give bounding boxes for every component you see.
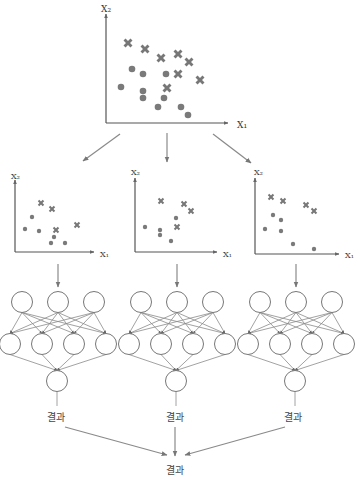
branch-result-left: 결과 [47, 409, 65, 424]
arrow-left-to-final [65, 427, 167, 455]
cross-marker [280, 198, 286, 204]
neural-network-0 [0, 292, 117, 407]
dot-marker [312, 247, 316, 251]
neuron-node [0, 334, 21, 355]
dot-marker [161, 95, 168, 102]
dot-marker [291, 242, 295, 246]
dot-marker [52, 235, 56, 239]
dot-marker [118, 84, 125, 91]
arrow-right-to-final [185, 427, 285, 455]
final-result: 결과 [166, 462, 184, 477]
cross-marker [311, 208, 317, 214]
dot-marker [129, 66, 136, 73]
aggregation-arrows [65, 427, 285, 456]
dot-marker [30, 215, 34, 219]
neuron-node [183, 334, 204, 355]
dot-marker [158, 228, 162, 232]
cross-marker [174, 70, 183, 79]
branch-result-center: 결과 [166, 409, 184, 424]
cross-marker [268, 194, 274, 200]
neuron-node [48, 292, 69, 313]
dot-marker [23, 227, 27, 231]
dot-marker [49, 241, 53, 245]
neuron-node [151, 334, 172, 355]
cross-marker [38, 200, 44, 206]
cross-marker [124, 39, 133, 48]
top-plot-markers [118, 39, 205, 119]
dot-marker [178, 104, 185, 111]
neuron-node [119, 334, 140, 355]
cross-marker [174, 50, 183, 59]
split-arrows [83, 133, 251, 163]
cross-marker [49, 206, 55, 212]
subset-right-x-label: X₁ [345, 251, 354, 260]
neuron-node [203, 292, 224, 313]
neuron-node [286, 292, 307, 313]
neuron-node [285, 371, 306, 392]
neuron-node [167, 292, 188, 313]
cross-marker [74, 222, 80, 228]
cross-marker [53, 227, 59, 233]
dot-marker [169, 239, 173, 243]
cross-marker [141, 45, 150, 54]
dot-marker [140, 71, 147, 78]
neuron-node [270, 334, 291, 355]
cross-marker [185, 58, 194, 67]
neuron-node [166, 371, 187, 392]
arrow-to-right-subset [213, 134, 251, 163]
dot-marker [279, 229, 283, 233]
dot-marker [37, 229, 41, 233]
neuron-node [238, 334, 259, 355]
neuron-node [84, 292, 105, 313]
subset-to-network-arrows [58, 264, 296, 287]
dot-marker [271, 213, 275, 217]
cross-marker [188, 208, 194, 214]
neuron-node [96, 334, 117, 355]
neural-network-1 [119, 292, 236, 407]
dot-marker [163, 71, 170, 78]
dot-marker [143, 225, 147, 229]
subset-center-y-label: X₂ [131, 168, 140, 177]
dot-marker [279, 218, 283, 222]
top-y-label: X₂ [101, 4, 111, 14]
neuron-node [250, 292, 271, 313]
cross-marker [163, 84, 172, 93]
neuron-node [32, 334, 53, 355]
cross-marker [174, 224, 180, 230]
neural-network-2 [238, 292, 355, 407]
neuron-node [12, 292, 33, 313]
top-scatter-plot: X₂ X₁ [101, 4, 247, 130]
cross-marker [196, 76, 205, 85]
subset-plot-right: X₂ X₁ [254, 168, 354, 260]
neuron-node [47, 371, 68, 392]
dot-marker [140, 88, 147, 95]
subset-left-x-label: X₁ [100, 250, 109, 259]
dot-marker [63, 241, 67, 245]
dot-marker [174, 216, 178, 220]
dot-marker [185, 112, 192, 119]
arrow-to-left-subset [83, 134, 120, 161]
branch-result-right: 결과 [284, 409, 302, 424]
subset-left-y-label: X₂ [11, 172, 20, 181]
cross-marker [303, 202, 309, 208]
dot-marker [158, 233, 162, 237]
cross-marker [157, 54, 166, 63]
subset-plot-center: X₂ X₁ [131, 168, 232, 259]
dot-marker [263, 227, 267, 231]
neuron-node [302, 334, 323, 355]
top-x-label: X₁ [237, 120, 247, 130]
dot-marker [140, 95, 147, 102]
neuron-node [131, 292, 152, 313]
subset-plot-left: X₂ X₁ [11, 172, 109, 259]
neural-networks [0, 292, 355, 407]
neuron-node [64, 334, 85, 355]
subset-right-y-label: X₂ [254, 168, 263, 177]
neuron-node [322, 292, 343, 313]
neuron-node [215, 334, 236, 355]
cross-marker [158, 198, 164, 204]
dot-marker [155, 104, 162, 111]
neuron-node [334, 334, 355, 355]
cross-marker [181, 201, 187, 207]
subset-center-x-label: X₁ [223, 250, 232, 259]
